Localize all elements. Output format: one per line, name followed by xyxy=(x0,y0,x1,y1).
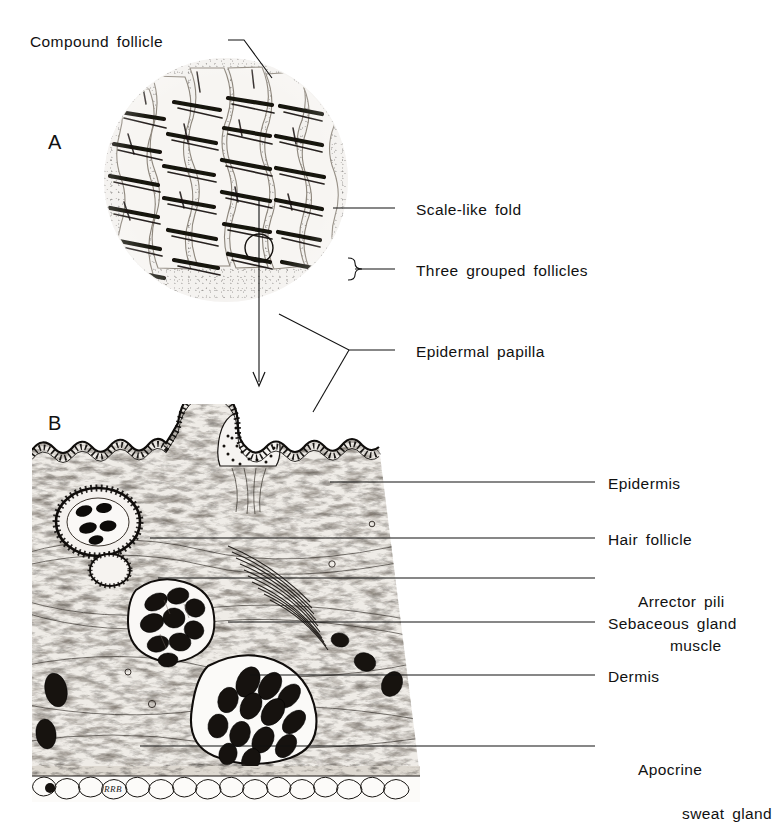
label-dermis: Dermis xyxy=(608,666,659,688)
label-apocrine-sweat-gland: Apocrine sweat gland xyxy=(608,737,772,828)
panel-b-histologic-section xyxy=(32,404,420,802)
label-three-grouped-follicles: Three grouped follicles xyxy=(416,260,588,282)
label-sebaceous-gland: Sebaceous gland xyxy=(608,613,737,635)
hair-follicle-group xyxy=(56,488,140,556)
label-hair-follicle: Hair follicle xyxy=(608,529,692,551)
leader-epidermal-papilla-to-panel-a xyxy=(279,314,395,350)
bracket-three-grouped-follicles xyxy=(348,258,362,280)
leader-epidermal-papilla-to-panel-b xyxy=(313,350,349,412)
panel-a-surface-view xyxy=(104,58,348,302)
label-arrector-pili-line1: Arrector pili xyxy=(638,593,725,610)
label-scale-like-fold: Scale-like fold xyxy=(416,199,522,221)
label-apocrine-line1: Apocrine xyxy=(638,761,702,778)
panel-b-drawing xyxy=(32,404,420,802)
label-arrector-pili-line2: muscle xyxy=(608,635,725,657)
label-apocrine-line2: sweat gland xyxy=(608,803,772,825)
panel-letter-a: A xyxy=(48,131,62,154)
label-compound-follicle: Compound follicle xyxy=(30,31,163,53)
satellite-follicle xyxy=(90,554,130,586)
subcutaneous-fat-layer xyxy=(32,764,420,802)
artist-signature: RRB xyxy=(104,784,122,794)
label-epidermal-papilla: Epidermal papilla xyxy=(416,341,545,363)
magnification-arrow-head xyxy=(253,372,265,386)
panel-a-edge-fade xyxy=(104,58,348,302)
label-epidermis: Epidermis xyxy=(608,473,681,495)
